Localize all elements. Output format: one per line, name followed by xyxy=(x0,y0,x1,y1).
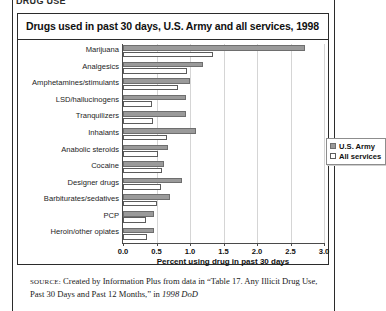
chart-category-row: Heroin/other opiates xyxy=(123,226,324,243)
y-axis-category-label: Amphetamines/stimulants xyxy=(0,78,119,87)
y-axis-category-label: Marijuana xyxy=(0,45,119,54)
bar-all-services xyxy=(123,101,152,107)
bar-us-army xyxy=(123,161,164,167)
bar-us-army xyxy=(123,228,154,234)
y-axis-category-label: PCP xyxy=(0,211,119,220)
bar-us-army xyxy=(123,95,186,101)
gridline xyxy=(324,44,325,243)
chart-category-row: Designer drugs xyxy=(123,177,324,194)
x-axis-tick-label: 1.5 xyxy=(209,247,239,256)
chart-category-row: Inhalants xyxy=(123,127,324,144)
page-running-head: DRUG USE xyxy=(16,0,136,5)
x-axis-tick-label: 0.0 xyxy=(108,247,138,256)
chart-category-row: Marijuana xyxy=(123,44,324,61)
bar-all-services xyxy=(123,118,153,124)
source-note-label: SOURCE: xyxy=(30,278,61,286)
title-divider xyxy=(18,39,328,40)
x-axis-tick xyxy=(324,243,325,246)
bar-us-army xyxy=(123,211,154,217)
bar-us-army xyxy=(123,145,168,151)
figure-container: Drugs used in past 30 days, U.S. Army an… xyxy=(17,13,329,265)
y-axis-category-label: LSD/hallucinogens xyxy=(0,95,119,104)
x-axis-tick xyxy=(123,243,124,246)
bar-us-army xyxy=(123,194,170,200)
chart-category-row: Analgesics xyxy=(123,61,324,78)
x-axis-tick xyxy=(224,243,225,246)
bar-us-army xyxy=(123,62,203,68)
bar-all-services xyxy=(123,68,187,74)
chart-category-row: Cocaine xyxy=(123,160,324,177)
chart-category-row: Barbiturates/sedatives xyxy=(123,193,324,210)
bar-us-army xyxy=(123,178,182,184)
x-axis-tick-label: 1.0 xyxy=(175,247,205,256)
y-axis-category-label: Tranquilizers xyxy=(0,111,119,120)
bar-all-services xyxy=(123,151,158,157)
source-note: SOURCE: Created by Information Plus from… xyxy=(30,276,322,300)
x-axis-tick xyxy=(190,243,191,246)
figure-title: Drugs used in past 30 days, U.S. Army an… xyxy=(26,20,324,32)
bar-all-services xyxy=(123,168,162,174)
legend-label-all-services: All services xyxy=(339,152,381,161)
legend-entry-army: U.S. Army xyxy=(330,141,381,151)
y-axis-category-label: Barbiturates/sedatives xyxy=(0,194,119,203)
x-axis-tick-label: 3.0 xyxy=(309,247,339,256)
bar-us-army xyxy=(123,78,190,84)
chart-category-row: Anabolic steroids xyxy=(123,144,324,161)
bar-us-army xyxy=(123,128,196,134)
y-axis-category-label: Inhalants xyxy=(0,128,119,137)
bar-all-services xyxy=(123,85,178,91)
x-axis-tick xyxy=(291,243,292,246)
source-note-italic-tail: 1998 DoD xyxy=(162,289,198,299)
x-axis-tick xyxy=(157,243,158,246)
x-axis-tick-label: 0.5 xyxy=(142,247,172,256)
chart-category-row: PCP xyxy=(123,210,324,227)
y-axis-category-label: Cocaine xyxy=(0,161,119,170)
bar-all-services xyxy=(123,52,213,58)
bar-us-army xyxy=(123,111,186,117)
chart-category-row: LSD/hallucinogens xyxy=(123,94,324,111)
chart-plot-area: Percent using drug in past 30 days U.S. … xyxy=(122,44,324,244)
bar-all-services xyxy=(123,184,161,190)
y-axis-category-label: Analgesics xyxy=(0,62,119,71)
chart-category-row: Amphetamines/stimulants xyxy=(123,77,324,94)
legend-swatch-all-services-icon xyxy=(330,153,336,159)
y-axis-category-label: Designer drugs xyxy=(0,178,119,187)
legend-label-army: U.S. Army xyxy=(339,142,375,151)
y-axis-category-label: Anabolic steroids xyxy=(0,145,119,154)
bar-us-army xyxy=(123,45,305,51)
x-axis-tick xyxy=(257,243,258,246)
legend-entry-all-services: All services xyxy=(330,151,381,161)
x-axis-title: Percent using drug in past 30 days xyxy=(83,257,363,266)
y-axis-category-label: Heroin/other opiates xyxy=(0,227,119,236)
bar-all-services xyxy=(123,135,167,141)
bar-all-services xyxy=(123,234,147,240)
bar-all-services xyxy=(123,217,146,223)
chart-category-row: Tranquilizers xyxy=(123,110,324,127)
x-axis-tick-label: 2.5 xyxy=(276,247,306,256)
chart-legend: U.S. Army All services xyxy=(326,138,386,165)
bar-all-services xyxy=(123,201,157,207)
legend-swatch-army-icon xyxy=(330,143,336,149)
x-axis-tick-label: 2.0 xyxy=(242,247,272,256)
